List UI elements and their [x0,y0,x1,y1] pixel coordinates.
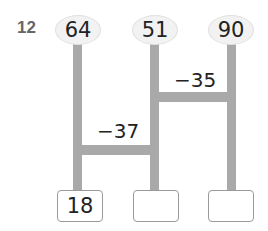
problem-number: 12 [17,18,36,38]
start-value-oval-3: 90 [208,15,254,45]
operation-label-minus-37: −37 [97,119,139,143]
start-value-oval-2: 51 [132,15,178,45]
vertical-bar-3 [227,44,236,192]
answer-box-3[interactable] [208,190,254,222]
vertical-bar-1 [73,44,82,192]
answer-box-2[interactable] [133,190,179,222]
connector-minus-35 [150,92,236,102]
start-value-oval-1: 64 [55,15,101,45]
operation-label-minus-35: −35 [174,68,216,92]
answer-box-1[interactable]: 18 [57,190,103,222]
vertical-bar-2 [150,44,159,192]
connector-minus-37 [73,145,159,155]
